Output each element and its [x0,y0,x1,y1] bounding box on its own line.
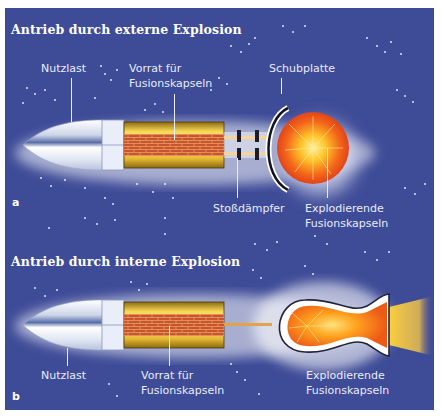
leader-pusher-plate [281,78,282,94]
leader-supply-a [174,94,175,140]
leader-shock-absorber [237,158,238,198]
diagram-panel: Antrieb durch externe Explosion Nutzlast… [5,8,434,410]
panel-a-letter: a [12,196,19,209]
label-supply-b-line1: Vorrat für [141,368,193,383]
label-supply-a-line2: Fusionskapseln [129,76,212,91]
label-exploding-a-line1: Explodierende [305,201,384,216]
spacecraft-external-explosion [15,106,375,210]
label-payload-a: Nutzlast [41,61,86,76]
label-exploding-b-line2: Fusionskapseln [306,383,389,398]
label-payload-b: Nutzlast [41,368,86,383]
panel-b-title: Antrieb durch interne Explosion [11,254,240,269]
label-exploding-a-line2: Fusionskapseln [305,216,388,231]
label-pusher-plate: Schubplatte [269,61,335,76]
leader-exploding-a [327,148,328,198]
panel-b-letter: b [12,390,20,403]
label-shock-absorber: Stoßdämpfer [213,201,285,216]
label-supply-b-line2: Fusionskapseln [141,383,224,398]
panel-a-title: Antrieb durch externe Explosion [11,22,242,37]
label-exploding-b-line1: Explodierende [306,368,385,383]
spacecraft-internal-explosion [15,282,434,370]
label-supply-a-line1: Vorrat für [129,61,181,76]
leader-supply-b [169,326,170,366]
leader-payload-b [67,348,68,366]
leader-payload-a [71,78,72,122]
